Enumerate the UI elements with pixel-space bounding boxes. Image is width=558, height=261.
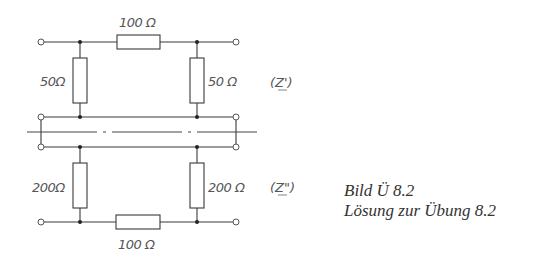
lower-series-label: 100 Ω	[118, 237, 155, 252]
upper-shunt-right-resistor	[190, 58, 204, 103]
terminal-lower-left-top	[38, 144, 44, 150]
lower-shunt-left-label: 200Ω	[32, 180, 65, 195]
junction-dot	[78, 115, 82, 119]
terminal-lower-right-top	[233, 144, 239, 150]
lower-shunt-right-label: 200 Ω	[208, 180, 245, 195]
junction-dot	[195, 40, 199, 44]
middle-section	[27, 120, 257, 144]
junction-dot	[195, 115, 199, 119]
upper-shunt-left-resistor	[73, 58, 87, 103]
upper-shunt-right-label: 50 Ω	[208, 74, 237, 89]
junction-dot	[78, 220, 82, 224]
lower-network: 200Ω 200 Ω 100 Ω (Z")	[32, 144, 295, 252]
upper-series-resistor	[117, 35, 160, 49]
junction-dot	[195, 220, 199, 224]
terminal-upper-right-top	[233, 39, 239, 45]
z-double-prime-label: (Z")	[270, 180, 295, 195]
lower-shunt-left-resistor	[73, 163, 87, 208]
lower-series-resistor	[116, 215, 160, 229]
z-prime-label: (Z')	[270, 75, 293, 90]
terminal-lower-left-bottom	[38, 219, 44, 225]
junction-dot	[195, 145, 199, 149]
upper-series-label: 100 Ω	[119, 15, 156, 30]
terminal-upper-right-bottom	[233, 114, 239, 120]
junction-dot	[78, 40, 82, 44]
terminal-upper-left-top	[38, 39, 44, 45]
circuit-diagram: 100 Ω 50Ω 50 Ω (Z')	[0, 0, 558, 261]
upper-network: 100 Ω 50Ω 50 Ω (Z')	[38, 15, 293, 120]
lower-shunt-right-resistor	[190, 163, 204, 208]
terminal-lower-right-bottom	[233, 219, 239, 225]
junction-dot	[78, 145, 82, 149]
upper-shunt-left-label: 50Ω	[40, 74, 66, 89]
figure-subtitle: Lösung zur Übung 8.2	[344, 201, 496, 221]
figure-title: Bild Ü 8.2	[344, 181, 414, 201]
terminal-upper-left-bottom	[38, 114, 44, 120]
